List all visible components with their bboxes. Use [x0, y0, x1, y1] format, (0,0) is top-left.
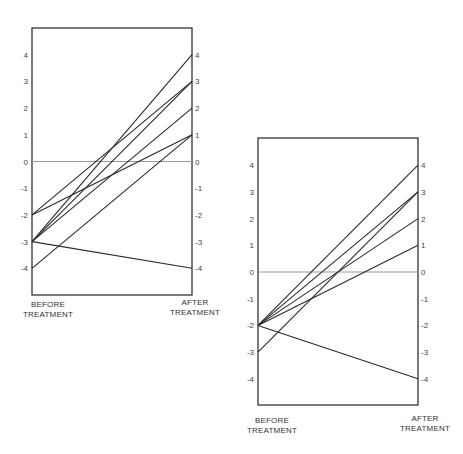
y-tick-right: 2: [421, 215, 426, 224]
y-tick-right: 0: [421, 268, 426, 277]
y-tick-left: -1: [247, 295, 255, 304]
y-tick-right: -4: [421, 375, 429, 384]
y-tick-right: -1: [421, 295, 429, 304]
y-tick-right: -3: [421, 348, 429, 357]
y-tick-left: 3: [250, 188, 255, 197]
y-tick-left: 0: [250, 268, 255, 277]
y-tick-left: 1: [250, 241, 255, 250]
series-line-subject-1: [258, 165, 418, 325]
chart-2-after-label: AFTER TREATMENT: [387, 414, 463, 434]
chart-2: 4433221100-1-1-2-2-3-3-4-4 BEFORE TREATM…: [0, 0, 463, 454]
chart-2-before-label: BEFORE TREATMENT: [242, 416, 302, 436]
chart-2-plot: 4433221100-1-1-2-2-3-3-4-4: [0, 0, 463, 410]
y-tick-right: -2: [421, 321, 429, 330]
y-tick-left: -4: [247, 375, 255, 384]
series-line-subject-2: [258, 192, 418, 326]
series-line-subject-4: [258, 245, 418, 325]
y-tick-right: 3: [421, 188, 426, 197]
y-tick-left: -3: [247, 348, 255, 357]
y-tick-left: 4: [250, 161, 255, 170]
y-tick-left: 2: [250, 215, 255, 224]
y-tick-right: 1: [421, 241, 426, 250]
y-tick-right: 4: [421, 161, 426, 170]
series-line-subject-5: [258, 325, 418, 378]
y-tick-left: -2: [247, 321, 255, 330]
